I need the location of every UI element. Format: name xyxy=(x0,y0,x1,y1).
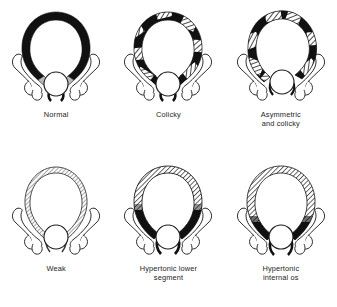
internal-os-hypertonic-os xyxy=(269,225,293,249)
internal-os-hypertonic-lower xyxy=(156,225,180,249)
diagram-hypertonic-lower-segment xyxy=(116,158,220,266)
panel-label-colicky: Colicky xyxy=(156,110,181,119)
panel-asymmetric-and-colicky: Asymmetric and colicky xyxy=(225,0,337,154)
uterine-wall-normal xyxy=(22,12,90,80)
panel-label-hypertonic-internal-os: Hypertonic internal os xyxy=(262,264,299,282)
internal-os-asymmetric xyxy=(270,70,294,94)
panel-label-asymmetric-and-colicky: Asymmetric and colicky xyxy=(261,110,301,128)
diagram-asymmetric-and-colicky xyxy=(229,4,333,112)
diagram-normal xyxy=(4,4,108,112)
panel-normal: Normal xyxy=(0,0,112,154)
uterine-contraction-figure: Normal xyxy=(0,0,337,307)
diagram-hypertonic-internal-os xyxy=(229,158,333,266)
panel-label-weak: Weak xyxy=(46,264,65,273)
internal-os-colicky xyxy=(156,72,180,96)
diagram-weak xyxy=(4,158,108,266)
internal-os-weak xyxy=(44,225,68,249)
diagram-colicky xyxy=(116,4,220,112)
panel-hypertonic-lower-segment: Hypertonic lower segment xyxy=(112,154,224,307)
panel-hypertonic-internal-os: Hypertonic internal os xyxy=(225,154,337,307)
panel-label-normal: Normal xyxy=(44,110,69,119)
internal-os-normal xyxy=(44,72,68,96)
panel-label-hypertonic-lower-segment: Hypertonic lower segment xyxy=(140,264,197,282)
panel-weak: Weak xyxy=(0,154,112,307)
panel-colicky: Colicky xyxy=(112,0,224,154)
